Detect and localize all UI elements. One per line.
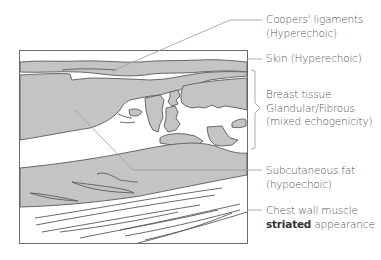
striated-emphasis: striated <box>266 218 311 230</box>
label-chest-wall-muscle: Chest wall muscle striated appearance <box>266 204 375 231</box>
label-breast-tissue: Breast tissue Glandular/Fibrous (mixed e… <box>266 88 372 129</box>
label-skin: Skin (Hyperechoic) <box>266 52 362 66</box>
glandular-finger-2 <box>168 90 180 106</box>
label-subcutaneous-fat: Subcutaneous fat (hypoechoic) <box>266 164 355 191</box>
leader-breast-bracket <box>251 70 260 149</box>
label-coopers-ligaments: Coopers' ligaments (Hyperechoic) <box>266 13 363 40</box>
